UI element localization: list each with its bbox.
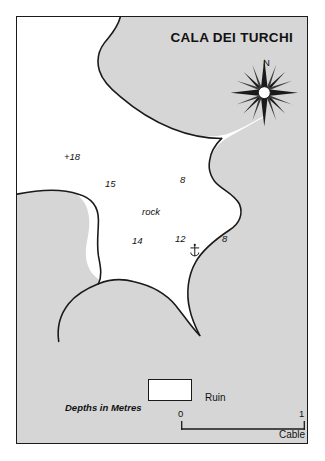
- map-frame: CALA DEI TURCHI N +18 15 8 14 12 8 rock …: [16, 16, 308, 444]
- sounding-15: 15: [105, 178, 116, 189]
- sounding-14: 14: [132, 235, 143, 246]
- sounding-12: 12: [175, 233, 186, 244]
- rock-hazard-label: rock: [142, 206, 160, 217]
- sounding-8-north: 8: [180, 174, 185, 185]
- sounding-18: +18: [64, 151, 80, 162]
- ruin-symbol: [148, 379, 192, 401]
- sounding-8-east: 8: [222, 233, 227, 244]
- ruin-label: Ruin: [205, 392, 226, 403]
- depths-note: Depths in Metres: [65, 402, 142, 413]
- nautical-chart: CALA DEI TURCHI N +18 15 8 14 12 8 rock …: [0, 0, 325, 461]
- scale-min-label: 0: [178, 408, 183, 419]
- scale-unit-label: Cable: [279, 429, 305, 440]
- north-label: N: [263, 57, 270, 68]
- chart-title: CALA DEI TURCHI: [171, 30, 294, 45]
- scale-max-label: 1: [299, 408, 304, 419]
